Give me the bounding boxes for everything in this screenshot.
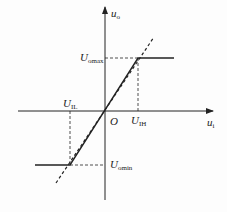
- diagram-svg: uo ui O Uomax Uomin UIH UIL: [0, 0, 227, 212]
- omax-label: Uomax: [80, 51, 104, 65]
- ih-label: UIH: [131, 114, 146, 128]
- transfer-characteristic-diagram: uo ui O Uomax Uomin UIH UIL: [0, 0, 227, 212]
- omin-label: Uomin: [110, 158, 133, 172]
- origin-label: O: [110, 115, 118, 127]
- x-axis-label: ui: [207, 116, 215, 130]
- il-label: UIL: [63, 97, 78, 111]
- y-axis-label: uo: [111, 7, 121, 21]
